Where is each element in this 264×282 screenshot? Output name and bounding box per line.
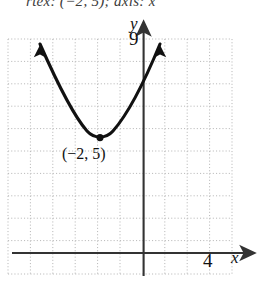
x-axis-label: x — [231, 249, 239, 266]
parabola-curve — [40, 44, 160, 137]
grid-vertical-lines — [8, 39, 232, 274]
vertex-point-marker — [96, 134, 103, 141]
y-tick-label-9: 9 — [129, 29, 139, 48]
x-tick-label-4: 4 — [203, 251, 213, 270]
vertex-coordinate-label: (−2, 5) — [62, 146, 106, 162]
figure-stage: rtex: (−2, 5); axis: x — [0, 0, 264, 282]
